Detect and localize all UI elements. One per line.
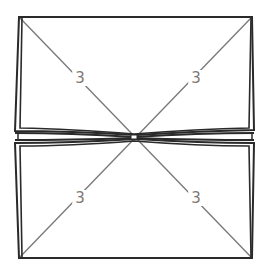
label-bottom-left: 3 — [72, 190, 88, 206]
bottom-sheet — [15, 138, 254, 258]
top-sheet-outer — [15, 17, 254, 135]
label-top-left: 3 — [72, 70, 88, 86]
label-top-right: 3 — [188, 70, 204, 86]
top-sheet — [15, 17, 254, 137]
bottom-sheet-inner — [20, 141, 251, 257]
label-bottom-right: 3 — [188, 190, 204, 206]
diagram-canvas — [0, 0, 264, 276]
bottom-sheet-outer — [15, 139, 254, 258]
top-sheet-inner — [20, 18, 251, 134]
center-pinch — [131, 135, 137, 139]
